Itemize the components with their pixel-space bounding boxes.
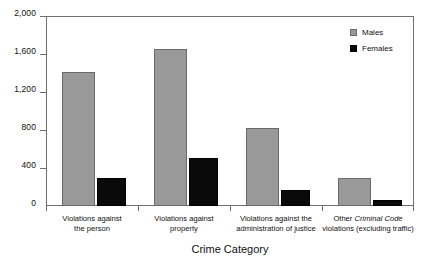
y-tick-1600: 1,600 xyxy=(0,54,46,55)
y-tick-label: 1,200 xyxy=(14,85,36,94)
category-tick xyxy=(138,206,139,211)
y-tick-label: 2,000 xyxy=(14,9,36,18)
bar-chart: 2,000 1,600 1,200 800 400 0 xyxy=(0,0,421,267)
category-tick xyxy=(46,206,47,211)
category-label-line-italic-part: Other Criminal Code xyxy=(318,214,418,224)
bar-males-administration[interactable] xyxy=(246,128,279,206)
legend: Males Females xyxy=(350,26,410,58)
x-axis-title: Crime Category xyxy=(46,243,414,256)
legend-label-females: Females xyxy=(362,44,393,53)
category-tick xyxy=(413,206,414,211)
category-label-line: administration of justice xyxy=(228,224,324,234)
bar-males-property[interactable] xyxy=(154,49,187,206)
y-tick-label: 400 xyxy=(22,161,36,170)
legend-swatch-females-icon xyxy=(350,45,357,52)
legend-item-males[interactable]: Males xyxy=(350,26,410,39)
y-tick-0: 0 xyxy=(0,206,46,207)
category-label-line: Violations against xyxy=(138,214,230,224)
bar-group-violations-against-the-person xyxy=(46,16,138,206)
bar-males-other-criminal-code[interactable] xyxy=(338,178,371,207)
legend-label-males: Males xyxy=(362,28,383,37)
category-label-line: violations (excluding traffic) xyxy=(318,224,418,234)
y-axis: 2,000 1,600 1,200 800 400 0 xyxy=(0,0,46,215)
x-axis-category-labels: Violations against the person Violations… xyxy=(46,214,414,240)
y-tick-label: 0 xyxy=(31,199,36,208)
category-label-violations-against-administration-of-justice: Violations against the administration of… xyxy=(228,214,324,233)
bar-group-violations-against-property xyxy=(138,16,230,206)
category-label-line: the person xyxy=(46,224,138,234)
criminal-code-italic: Criminal Code xyxy=(354,214,402,223)
bar-females-administration[interactable] xyxy=(281,190,310,206)
legend-swatch-males-icon xyxy=(350,29,357,36)
bar-females-property[interactable] xyxy=(189,158,218,207)
category-tick xyxy=(322,206,323,211)
bar-females-person[interactable] xyxy=(97,178,126,206)
y-tick-label: 800 xyxy=(22,123,36,132)
category-label-violations-against-the-person: Violations against the person xyxy=(46,214,138,233)
y-tick-2000: 2,000 xyxy=(0,16,46,17)
y-tick-800: 800 xyxy=(0,130,46,131)
category-tick xyxy=(230,206,231,211)
category-label-other-criminal-code-violations: Other Criminal Code violations (excludin… xyxy=(318,214,418,233)
legend-item-females[interactable]: Females xyxy=(350,42,410,55)
category-label-line: Violations against xyxy=(46,214,138,224)
bar-group-violations-against-administration-of-justice xyxy=(230,16,322,206)
category-label-line: property xyxy=(138,224,230,234)
bar-males-person[interactable] xyxy=(62,72,95,206)
category-label-violations-against-property: Violations against property xyxy=(138,214,230,233)
category-label-line: Violations against the xyxy=(228,214,324,224)
bar-females-other-criminal-code[interactable] xyxy=(373,200,402,206)
y-tick-1200: 1,200 xyxy=(0,92,46,93)
y-tick-label: 1,600 xyxy=(14,47,36,56)
y-tick-400: 400 xyxy=(0,168,46,169)
